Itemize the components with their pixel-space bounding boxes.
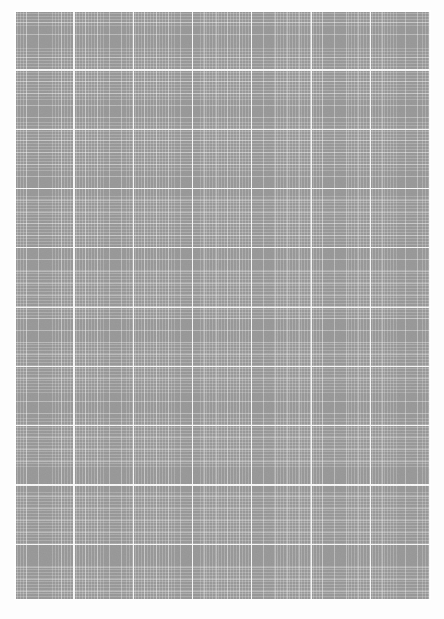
grid-border-top <box>14 10 431 12</box>
grid-border-left <box>14 10 16 600</box>
grid-border-bottom <box>14 599 431 601</box>
grid-border-right <box>430 10 432 600</box>
grid-sheet-canvas: Blank gray grid field with white major a… <box>0 0 444 619</box>
grid-field <box>14 10 431 600</box>
